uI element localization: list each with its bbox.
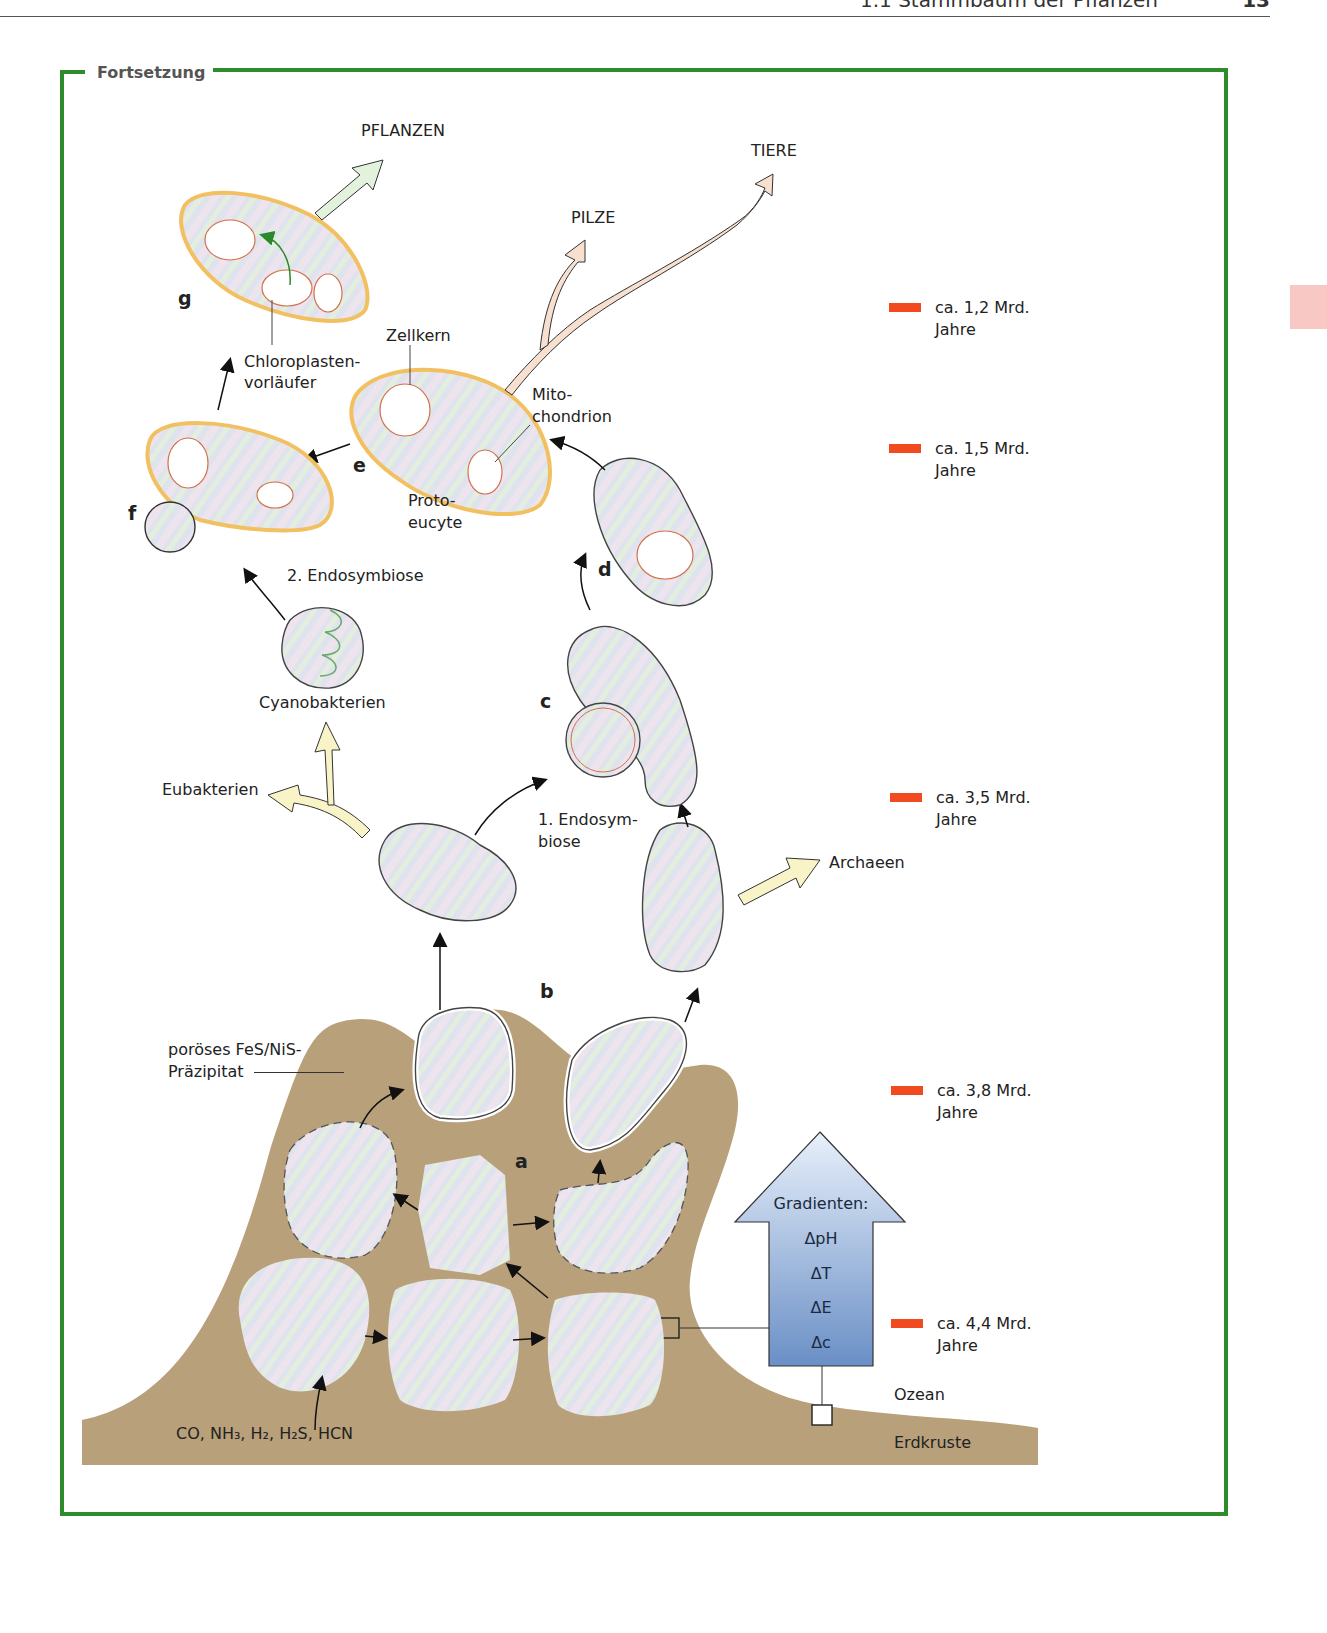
timeline-unit: Jahre (937, 1335, 1032, 1357)
timeline-value: ca. 4,4 Mrd. (937, 1313, 1032, 1335)
stage-letter-e: e (353, 454, 366, 476)
timeline-3-8bn: ca. 3,8 Mrd. Jahre (937, 1080, 1032, 1124)
label-endosymbiosis-1-line2: biose (538, 831, 581, 853)
label-ocean: Ozean (894, 1384, 945, 1406)
archaeon-cell (643, 805, 820, 1022)
timeline-unit: Jahre (937, 1102, 1032, 1124)
gradient-ph: ΔpH (771, 1229, 871, 1248)
label-endosymbiosis-1-line1: 1. Endosym- (538, 809, 638, 831)
timeline-marker (891, 1319, 923, 1328)
timeline-3-5bn: ca. 3,5 Mrd. Jahre (936, 787, 1031, 831)
timeline-unit: Jahre (935, 460, 1030, 482)
label-archaea: Archaeen (829, 852, 905, 874)
stage-letter-f: f (128, 502, 136, 524)
gradient-temperature: ΔT (771, 1264, 871, 1283)
timeline-1-2bn: ca. 1,2 Mrd. Jahre (935, 297, 1030, 341)
stage-letter-c: c (540, 690, 551, 712)
protoeucyte-e (305, 174, 773, 514)
label-nucleus: Zellkern (386, 325, 451, 347)
evolution-diagram (0, 0, 1327, 1633)
label-crust: Erdkruste (894, 1432, 971, 1454)
stage-letter-b: b (540, 980, 554, 1002)
cyanobacterium-cell (282, 608, 363, 688)
gradient-title: Gradienten: (771, 1194, 871, 1213)
label-eubacteria: Eubakterien (162, 779, 259, 801)
label-animals: TIERE (751, 140, 797, 162)
eubacterium-cell (268, 722, 545, 1010)
timeline-4-4bn: ca. 4,4 Mrd. Jahre (937, 1313, 1032, 1357)
gradient-energy: ΔE (771, 1298, 871, 1317)
label-proto-line2: eucyte (408, 512, 462, 534)
label-endosymbiosis-2: 2. Endosymbiose (287, 565, 424, 587)
timeline-marker (889, 444, 921, 453)
timeline-marker (889, 303, 921, 312)
label-chloroplast-line1: Chloroplasten- (244, 351, 360, 373)
timeline-value: ca. 3,5 Mrd. (936, 787, 1031, 809)
plant-ancestor-f (145, 423, 332, 620)
label-precipitate-line1: poröses FeS/NiS- (168, 1039, 302, 1061)
label-chloroplast-line2: vorläufer (244, 372, 316, 394)
timeline-value: ca. 3,8 Mrd. (937, 1080, 1032, 1102)
stage-letter-g: g (178, 287, 192, 309)
label-precipitate-line2: Präzipitat (168, 1061, 244, 1083)
gradient-concentration: Δc (771, 1333, 871, 1352)
stage-letter-a: a (515, 1150, 528, 1172)
timeline-marker (891, 1086, 923, 1095)
timeline-value: ca. 1,2 Mrd. (935, 297, 1030, 319)
timeline-unit: Jahre (936, 809, 1031, 831)
label-gases: CO, NH₃, H₂, H₂S, HCN (176, 1423, 353, 1445)
label-mito-line1: Mito- (532, 384, 572, 406)
protoeukaryote-d (552, 440, 712, 606)
precipitate-leader-line (254, 1072, 344, 1073)
timeline-marker (890, 793, 922, 802)
stage-letter-d: d (598, 558, 612, 580)
label-cyanobacteria: Cyanobakterien (259, 692, 386, 714)
timeline-1-5bn: ca. 1,5 Mrd. Jahre (935, 438, 1030, 482)
label-mito-line2: chondrion (532, 406, 612, 428)
label-fungi: PILZE (571, 207, 615, 229)
timeline-value: ca. 1,5 Mrd. (935, 438, 1030, 460)
timeline-unit: Jahre (935, 319, 1030, 341)
label-proto-line1: Proto- (408, 490, 456, 512)
label-plants: PFLANZEN (361, 120, 445, 142)
